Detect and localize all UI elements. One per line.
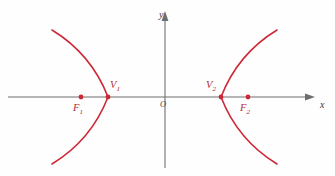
- right-focus-label: F2: [240, 103, 250, 116]
- left-focus-label-subscript: 1: [79, 108, 83, 116]
- right-vertex-point: [219, 95, 224, 100]
- right-vertex-label: V2: [206, 80, 216, 93]
- right-focus-label-subscript: 2: [246, 108, 250, 116]
- right-vertex-label-subscript: 2: [212, 85, 216, 93]
- x-axis-label: x: [320, 100, 324, 110]
- hyperbola-figure: y x O F1 V1 V2 F2: [0, 0, 335, 176]
- left-vertex-label-subscript: 1: [116, 85, 120, 93]
- left-vertex-point: [106, 95, 111, 100]
- y-axis-label: y: [159, 10, 163, 20]
- left-focus-point: [79, 95, 84, 100]
- x-axis-arrowhead: [305, 94, 315, 101]
- left-vertex-label: V1: [110, 80, 120, 93]
- hyperbola-plot-area: [0, 0, 335, 176]
- left-focus-label: F1: [73, 103, 83, 116]
- right-focus-point: [246, 95, 251, 100]
- origin-label: O: [160, 100, 166, 109]
